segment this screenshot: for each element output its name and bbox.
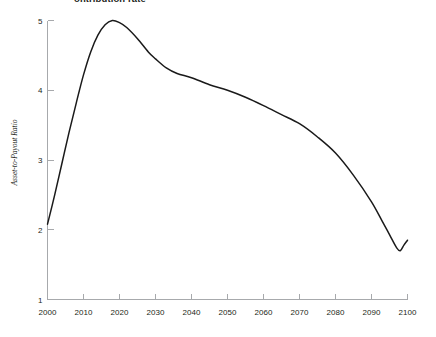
x-tick-label: 2080 (327, 308, 345, 317)
x-tick-label: 2070 (291, 308, 309, 317)
x-tick-label: 2020 (111, 308, 129, 317)
chart-figure: ontribution rate Asset-to-Payout Ratio 1… (0, 0, 436, 337)
y-tick-label: 5 (38, 17, 43, 26)
x-tick-label: 2060 (255, 308, 273, 317)
x-tick-label: 2040 (183, 308, 201, 317)
x-tick-label: 2030 (147, 308, 165, 317)
x-tick-label: 2100 (399, 308, 417, 317)
y-tick-label: 3 (38, 156, 43, 165)
plot-area: 12345 2000201020202030204020502060207020… (0, 0, 436, 337)
x-tick-label: 2010 (75, 308, 93, 317)
y-axis: 12345 (38, 17, 53, 305)
series-line (48, 20, 408, 250)
y-tick-label: 4 (38, 86, 43, 95)
x-axis: 2000201020202030204020502060207020802090… (39, 294, 417, 317)
x-tick-label: 2000 (39, 308, 57, 317)
y-tick-label: 2 (38, 226, 43, 235)
y-tick-label: 1 (38, 296, 43, 305)
x-tick-label: 2090 (363, 308, 381, 317)
x-tick-label: 2050 (219, 308, 237, 317)
data-series (48, 20, 408, 250)
